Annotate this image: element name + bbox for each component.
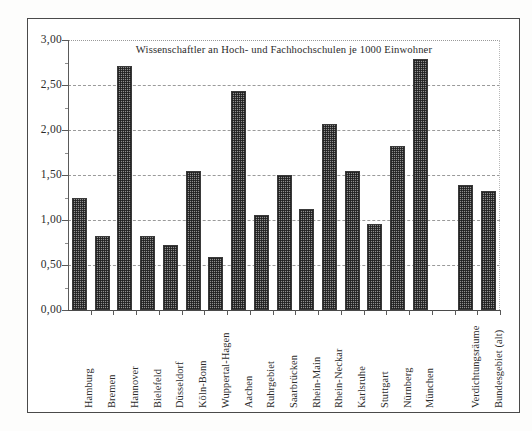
bar — [413, 59, 428, 310]
y-tick-label: 2,00 — [22, 124, 62, 136]
x-tick-mark — [409, 310, 410, 315]
x-tick-mark — [159, 310, 160, 315]
x-tick-label: Rhein-Main — [311, 357, 322, 408]
x-tick-mark — [182, 310, 183, 315]
x-tick-mark — [250, 310, 251, 315]
x-tick-mark — [341, 310, 342, 315]
x-tick-mark — [113, 310, 114, 315]
plot-area — [68, 40, 500, 310]
y-tick-label: 0,00 — [22, 304, 62, 316]
x-tick-label: Rhein-Neckar — [333, 349, 344, 408]
x-tick-mark — [386, 310, 387, 315]
x-tick-mark — [91, 310, 92, 315]
gridline-3,00 — [68, 40, 500, 41]
x-tick-label: Bielefeld — [152, 369, 163, 408]
y-tick-label: 0,50 — [22, 259, 62, 271]
bar — [208, 257, 223, 310]
x-tick-mark — [477, 310, 478, 315]
gridline-2,00 — [68, 130, 500, 131]
bar — [72, 198, 87, 310]
bar — [140, 236, 155, 310]
y-tick-label: 2,50 — [22, 79, 62, 91]
x-tick-mark — [500, 310, 501, 315]
bar — [117, 66, 132, 310]
y-tick-label: 1,50 — [22, 169, 62, 181]
bar — [299, 209, 314, 310]
chart-page: 0,000,501,001,502,002,503,00 Wissenschaf… — [0, 0, 532, 431]
x-tick-label: Düsseldorf — [174, 361, 185, 408]
y-axis-line — [68, 40, 69, 310]
bar — [95, 236, 110, 310]
x-tick-label: Stuttgart — [379, 371, 390, 408]
x-tick-label: Aachen — [243, 376, 254, 408]
x-tick-label: Wuppertal-Hagen — [220, 332, 231, 408]
x-tick-label: Hamburg — [83, 368, 94, 408]
x-tick-label: Köln-Bonn — [197, 360, 208, 408]
bar — [254, 215, 269, 310]
bar — [481, 191, 496, 310]
y-tick-label: 3,00 — [22, 34, 62, 46]
x-tick-label: Ruhrgebiet — [265, 361, 276, 408]
x-tick-mark — [455, 310, 456, 315]
x-tick-label: Nürnberg — [402, 368, 413, 408]
bar — [277, 175, 292, 310]
bar — [163, 245, 178, 310]
x-tick-mark — [432, 310, 433, 315]
x-tick-mark — [273, 310, 274, 315]
bar — [458, 185, 473, 310]
bar — [186, 171, 201, 311]
bar — [367, 224, 382, 310]
bar — [231, 91, 246, 310]
x-tick-mark — [295, 310, 296, 315]
chart-title: Wissenschaftler an Hoch- und Fachhochsch… — [68, 44, 500, 55]
x-tick-label: Karlsruhe — [356, 366, 367, 408]
x-tick-mark — [136, 310, 137, 315]
x-tick-label: Bundesgebiet (alt) — [493, 330, 504, 408]
bar — [345, 171, 360, 311]
x-tick-label: Hannover — [129, 366, 140, 408]
gridline-2,50 — [68, 85, 500, 86]
x-tick-mark — [364, 310, 365, 315]
x-tick-mark — [204, 310, 205, 315]
bar — [390, 146, 405, 310]
x-tick-label: München — [424, 368, 435, 408]
x-tick-mark — [318, 310, 319, 315]
x-tick-label: Bremen — [106, 375, 117, 409]
x-tick-label: Verdichtungsräume — [470, 326, 481, 409]
x-tick-mark — [227, 310, 228, 315]
y-tick-label: 1,00 — [22, 214, 62, 226]
bar — [322, 124, 337, 310]
x-axis-labels: HamburgBremenHannoverBielefeldDüsseldorf… — [68, 316, 500, 410]
x-tick-label: Saarbrücken — [288, 355, 299, 408]
plot-right-edge — [499, 40, 500, 310]
